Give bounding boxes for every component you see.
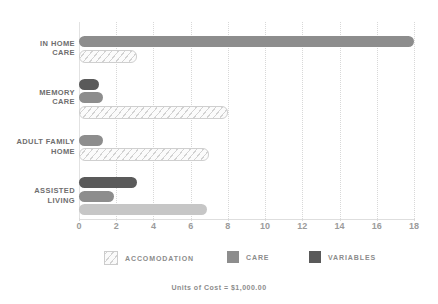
x-tick-label-4: 4 <box>138 221 168 231</box>
chart-legend: ACCOMODATIONCAREVARIABLES <box>0 251 438 267</box>
gridline-18 <box>414 22 416 219</box>
bar-assisted-living-care <box>79 191 114 202</box>
category-label-adult-family-home: ADULT FAMILYHOME <box>0 137 75 156</box>
bar-memory-care-care <box>79 92 103 103</box>
category-label-memory-care: MEMORYCARE <box>0 88 75 107</box>
bar-assisted-living-accomodation <box>79 204 207 215</box>
legend-swatch-care <box>227 251 239 263</box>
bar-series-container <box>79 22 414 219</box>
plot-area <box>79 22 414 219</box>
x-tick-label-14: 14 <box>325 221 355 231</box>
x-tick-label-8: 8 <box>213 221 243 231</box>
x-axis-ticks: 024681012141618 <box>79 221 414 237</box>
legend-item-care[interactable]: CARE <box>227 251 269 263</box>
category-label-in-home-care: IN HOMECARE <box>0 39 75 58</box>
category-axis-labels: IN HOMECAREMEMORYCAREADULT FAMILYHOMEASS… <box>0 22 75 219</box>
legend-swatch-variables <box>309 251 321 263</box>
legend-swatch-accomodation <box>104 251 118 265</box>
x-axis-line <box>79 219 415 220</box>
units-footnote: Units of Cost = $1,000.00 <box>0 284 438 291</box>
bar-adult-family-home-care <box>79 135 103 146</box>
bar-memory-care-variables <box>79 79 99 90</box>
bar-memory-care-accomodation <box>79 106 228 119</box>
chart-title: COST OF CARE <box>0 0 438 1</box>
legend-label-accomodation: ACCOMODATION <box>125 255 194 262</box>
bar-assisted-living-variables <box>79 177 137 188</box>
bar-in-home-care-care <box>79 36 414 47</box>
bar-adult-family-home-accomodation <box>79 148 209 161</box>
legend-label-care: CARE <box>246 254 269 261</box>
bar-in-home-care-accomodation <box>79 50 137 63</box>
x-tick-label-12: 12 <box>287 221 317 231</box>
x-tick-label-0: 0 <box>64 221 94 231</box>
legend-label-variables: VARIABLES <box>328 254 376 261</box>
category-label-assisted-living: ASSISTEDLIVING <box>0 186 75 205</box>
x-tick-label-10: 10 <box>250 221 280 231</box>
x-tick-label-6: 6 <box>176 221 206 231</box>
cost-of-care-bar-chart: COST OF CARE IN HOMECAREMEMORYCAREADULT … <box>0 0 438 304</box>
legend-item-variables[interactable]: VARIABLES <box>309 251 376 263</box>
x-tick-label-2: 2 <box>101 221 131 231</box>
x-tick-label-16: 16 <box>362 221 392 231</box>
legend-item-accomodation[interactable]: ACCOMODATION <box>104 251 194 265</box>
x-tick-label-18: 18 <box>399 221 429 231</box>
